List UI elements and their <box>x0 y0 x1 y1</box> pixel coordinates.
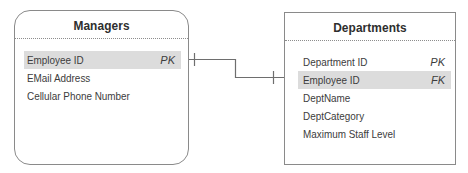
relationship-line[interactable] <box>189 60 284 78</box>
relationship-connector[interactable] <box>0 0 468 173</box>
